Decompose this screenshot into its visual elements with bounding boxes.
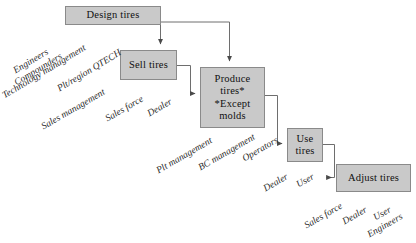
- role-label-adjust-dealer: Dealer: [341, 204, 369, 226]
- role-label-adjust-sales-force: Sales force: [303, 201, 344, 231]
- diagram-canvas: Design tires Sell tires Produce tires* *…: [0, 0, 416, 243]
- role-group-adjust: Sales force Dealer User Engineers: [0, 0, 416, 243]
